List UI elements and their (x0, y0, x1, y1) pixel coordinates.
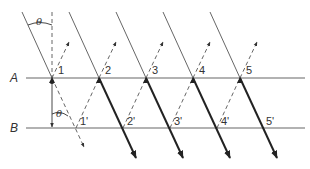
plane-a-label: A (9, 71, 18, 85)
wave-reflection-diagram: A B θ θ (0, 0, 310, 169)
point-label-1-prime: 1' (80, 115, 88, 127)
point-label-2: 2 (105, 64, 111, 76)
point-label-4: 4 (199, 64, 205, 76)
point-label-2-prime: 2' (127, 115, 135, 127)
theta-label-bottom: θ (56, 108, 62, 119)
point-label-4-prime: 4' (221, 115, 229, 127)
incident-rays (22, 12, 240, 78)
point-label-1: 1 (58, 64, 64, 76)
point-label-3-prime: 3' (174, 115, 182, 127)
theta-label-top: θ (36, 16, 42, 27)
plane-b-label: B (10, 121, 18, 135)
point-label-3: 3 (152, 64, 158, 76)
transmitted-rays (99, 78, 277, 158)
point-label-5-prime: 5' (266, 115, 274, 127)
point-label-5: 5 (246, 64, 252, 76)
